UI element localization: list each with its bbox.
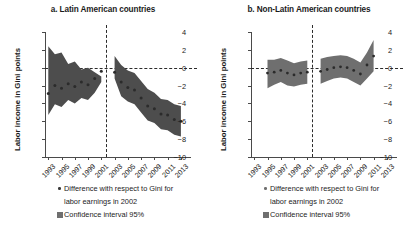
panel-non-latin-american: b. Non-Latin American countries Labor in… [206, 0, 412, 235]
panel-a-legend-point-label-line1: Difference with respect to Gini for [64, 184, 173, 194]
panel-a-legend-point-row: Difference with respect to Gini for [55, 184, 200, 194]
panel-b-legend-band-row: Confidence interval 95% [261, 210, 406, 220]
band-swatch-icon [55, 210, 64, 218]
panel-a-plot-area: 4 2 0 −2 −4 −6 −8 −10 1993 [45, 32, 191, 157]
panel-b-title: b. Non-Latin American countries [206, 5, 412, 14]
panel-b-ytick-label: −10 [379, 153, 392, 162]
panel-b-ytick-label: 4 [388, 28, 392, 37]
panel-b-ytick-label: −4 [384, 99, 392, 108]
figure-container: a. Latin American countries Labor income… [0, 0, 412, 235]
panel-b-legend: Difference with respect to Gini for labo… [261, 184, 406, 223]
panel-a-legend-point-label-line2: labor earnings in 2002 [64, 197, 137, 207]
panel-a-legend-band-row: Confidence interval 95% [55, 210, 200, 220]
point-marker-icon [55, 184, 64, 190]
panel-b-legend-point-label-line2: labor earnings in 2002 [270, 197, 343, 207]
panel-a-ytick-label: 2 [182, 45, 186, 54]
panel-b-ytick-label: 0 [388, 63, 392, 72]
panel-b-point-estimates [251, 32, 397, 157]
panel-b-ytick-label: 2 [388, 45, 392, 54]
panel-latin-american: a. Latin American countries Labor income… [0, 0, 206, 235]
panel-b-legend-band-label: Confidence interval 95% [270, 210, 350, 220]
panel-a-legend-band-label: Confidence interval 95% [64, 210, 144, 220]
band-swatch-icon [261, 210, 270, 218]
panel-a-legend-point-row-cont: labor earnings in 2002 [55, 197, 200, 207]
panel-a-ytick-label: −6 [178, 117, 186, 126]
panel-b-ytick-label: −8 [384, 135, 392, 144]
panel-b-ytick-label: −2 [384, 81, 392, 90]
point-marker-icon [261, 184, 270, 190]
panel-a-ytick-label: −2 [178, 81, 186, 90]
panel-b-legend-point-label-line1: Difference with respect to Gini for [270, 184, 379, 194]
panel-a-x-axis [45, 157, 191, 158]
panel-a-ytick-label: −4 [178, 99, 186, 108]
panel-b-y-axis-title: Labor income in Gini points [219, 35, 228, 165]
panel-a-point-estimates [45, 32, 191, 157]
panel-b-plot-area: 4 2 0 −2 −4 −6 −8 −10 1993 1995 [251, 32, 397, 157]
panel-a-y-axis-title: Labor income in Gini points [13, 35, 22, 165]
panel-a-ytick-label: 0 [182, 63, 186, 72]
panel-b-ytick-label: −6 [384, 117, 392, 126]
panel-b-x-axis [251, 157, 397, 158]
panel-b-legend-point-row-cont: labor earnings in 2002 [261, 197, 406, 207]
panel-a-ytick-label: −10 [173, 153, 186, 162]
panel-a-ytick-label: −8 [178, 135, 186, 144]
panel-a-ytick-label: 4 [182, 28, 186, 37]
panel-a-legend: Difference with respect to Gini for labo… [55, 184, 200, 223]
panel-b-legend-point-row: Difference with respect to Gini for [261, 184, 406, 194]
panel-a-title: a. Latin American countries [0, 5, 206, 14]
